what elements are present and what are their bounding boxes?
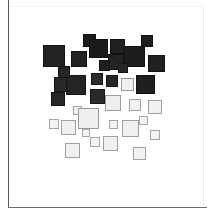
square-marker [89, 39, 108, 58]
square-marker [139, 116, 148, 125]
square-marker [103, 136, 118, 151]
square-marker [148, 100, 162, 114]
square-marker [110, 39, 125, 54]
square-marker [91, 73, 103, 85]
square-marker [51, 92, 65, 106]
square-marker [71, 51, 87, 67]
square-marker [129, 99, 141, 111]
square-marker [148, 55, 165, 72]
square-marker [109, 120, 118, 129]
square-marker [106, 75, 118, 87]
square-marker [121, 78, 134, 91]
square-marker [122, 120, 139, 137]
square-marker [150, 130, 160, 140]
square-marker [133, 147, 146, 160]
square-marker [78, 108, 99, 129]
scatter-plot-area [0, 0, 215, 218]
square-marker [49, 119, 59, 129]
square-marker [61, 120, 76, 135]
square-marker [90, 137, 100, 147]
square-marker [66, 75, 86, 95]
square-marker [136, 75, 155, 94]
square-marker [99, 60, 110, 71]
square-marker [43, 45, 65, 67]
square-marker [90, 89, 105, 104]
figure-panel [0, 0, 215, 218]
square-marker [105, 95, 121, 111]
square-marker [82, 129, 90, 137]
square-marker [118, 63, 128, 73]
square-marker [65, 143, 80, 158]
square-marker [58, 66, 70, 78]
